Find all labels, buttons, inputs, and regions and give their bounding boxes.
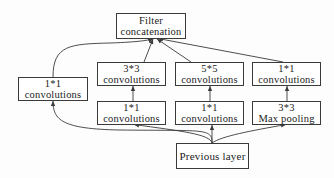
node-label: convolutions — [258, 74, 315, 85]
node-label: convolutions — [25, 89, 82, 100]
node-label: Previous layer — [179, 151, 245, 162]
node-label: convolutions — [181, 74, 238, 85]
edge-branch4-to-concat — [158, 39, 283, 63]
inception-module-diagram: Filter concatenation 1*1 convolutions 3*… — [0, 0, 334, 178]
node-label: Max pooling — [258, 113, 314, 124]
edge-input-to-branch2-reduce — [134, 125, 212, 144]
node-label: 3*3 — [278, 102, 294, 113]
branch3-conv5x5-node: 5*5 convolutions — [175, 62, 244, 86]
filter-concatenation-node: Filter concatenation — [116, 13, 186, 39]
previous-layer-node: Previous layer — [176, 143, 249, 169]
edge-input-to-maxpool — [212, 125, 286, 144]
branch2-reduce-conv1x1-node: 1*1 convolutions — [97, 101, 166, 125]
node-label: convolutions — [103, 113, 160, 124]
node-label: Filter — [139, 15, 163, 26]
branch3-reduce-conv1x1-node: 1*1 convolutions — [175, 101, 244, 125]
edge-conv5x5-to-concat — [157, 39, 191, 62]
node-label: 1*1 — [201, 102, 217, 113]
branch2-conv3x3-node: 3*3 convolutions — [97, 62, 166, 86]
node-label: 5*5 — [201, 63, 217, 74]
node-label: convolutions — [103, 74, 160, 85]
branch4-conv1x1-node: 1*1 convolutions — [252, 62, 321, 86]
node-label: 1*1 — [278, 63, 294, 74]
node-label: 1*1 — [123, 102, 139, 113]
node-label: 3*3 — [123, 63, 139, 74]
node-label: convolutions — [181, 113, 238, 124]
edge-conv3x3-to-concat — [144, 39, 153, 62]
node-label: concatenation — [121, 26, 182, 37]
branch4-maxpool-node: 3*3 Max pooling — [252, 101, 321, 125]
node-label: 1*1 — [45, 78, 61, 89]
branch1-conv1x1-node: 1*1 convolutions — [18, 77, 88, 101]
